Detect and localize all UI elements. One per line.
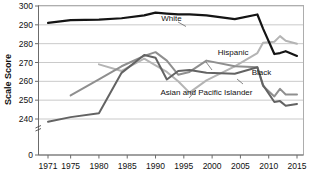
annotation-leaders [178, 22, 243, 98]
y-axis-ticks [35, 6, 39, 155]
y-tick-label: 250 [19, 95, 33, 105]
y-tick-label: 280 [19, 39, 33, 49]
x-tick-label: 1990 [146, 161, 165, 171]
y-tick-label: 270 [19, 58, 33, 68]
series-annotations: WhiteHispanicBlackAsian and Pacific Isla… [160, 14, 272, 97]
chart-container: WhiteHispanicBlackAsian and Pacific Isla… [0, 0, 311, 182]
x-tick-label: 2005 [231, 161, 250, 171]
y-axis-tick-labels: 3002902802702602502400 [19, 1, 33, 160]
x-axis-tick-labels: 1971197519801985199019952000200520102015 [39, 161, 307, 171]
line-chart: WhiteHispanicBlackAsian and Pacific Isla… [0, 0, 311, 182]
y-axis-title: Scale Score [3, 54, 13, 105]
y-tick-label: 240 [19, 114, 33, 124]
y-tick-label: 260 [19, 76, 33, 86]
y-tick-label: 0 [28, 150, 33, 160]
x-tick-label: 1971 [39, 161, 58, 171]
x-tick-label: 2010 [259, 161, 278, 171]
x-axis-ticks [48, 155, 297, 159]
series-label-white: White [161, 14, 182, 23]
x-tick-label: 1995 [174, 161, 193, 171]
series-label-asian-and-pacific-islander: Asian and Pacific Islander [160, 88, 252, 97]
y-axis-title-text: Scale Score [3, 54, 13, 105]
x-tick-label: 1975 [61, 161, 80, 171]
x-tick-label: 2015 [288, 161, 307, 171]
y-tick-label: 290 [19, 20, 33, 30]
y-tick-label: 300 [19, 1, 33, 11]
x-tick-label: 1980 [89, 161, 108, 171]
annotation-leader [206, 62, 212, 70]
x-tick-label: 1985 [118, 161, 137, 171]
series-label-black: Black [252, 68, 273, 77]
series-label-hispanic: Hispanic [218, 48, 249, 57]
x-tick-label: 2000 [203, 161, 222, 171]
series-line-asian-and-pacific-islander [99, 36, 297, 92]
